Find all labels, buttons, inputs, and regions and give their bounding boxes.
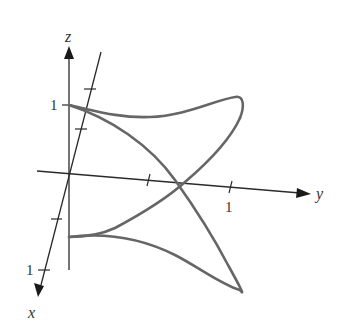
z-arrow-icon	[64, 46, 74, 59]
x-arrow-icon	[34, 283, 44, 297]
curve-descending-branch	[69, 105, 242, 292]
x-axis-label: x	[27, 304, 35, 321]
z-tick-label: 1	[50, 97, 58, 113]
x-tick-label: 1	[26, 262, 34, 278]
space-curve-figure: z 1 x 1 y 1	[0, 0, 342, 332]
curve-top-loop-descent	[69, 118, 240, 237]
y-tick-label: 1	[225, 199, 233, 215]
curve-lower-branch	[69, 236, 240, 290]
space-curve	[69, 97, 243, 292]
y-arrow-icon	[296, 188, 311, 198]
y-axis: y 1	[37, 171, 324, 215]
z-axis-label: z	[64, 28, 72, 45]
y-axis-label: y	[314, 185, 324, 203]
x-axis: x 1	[26, 52, 101, 321]
